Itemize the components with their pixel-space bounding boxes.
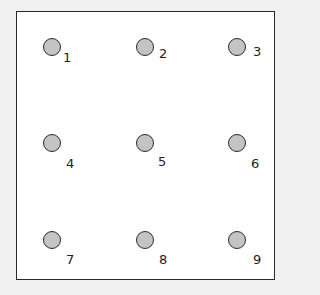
point-9-label: 9: [253, 253, 261, 266]
point-2-marker: [136, 38, 154, 56]
point-7-marker: [43, 231, 61, 249]
point-7-label: 7: [66, 253, 74, 266]
point-4-label: 4: [66, 157, 74, 170]
point-8-label: 8: [159, 253, 167, 266]
point-1-label: 1: [63, 51, 71, 64]
point-6-label: 6: [251, 157, 259, 170]
point-6-marker: [228, 134, 246, 152]
point-5-label: 5: [158, 155, 166, 168]
point-2-label: 2: [159, 47, 167, 60]
point-5-marker: [136, 134, 154, 152]
point-4-marker: [43, 134, 61, 152]
point-9-marker: [228, 231, 246, 249]
point-3-label: 3: [253, 45, 261, 58]
point-8-marker: [136, 231, 154, 249]
point-3-marker: [228, 38, 246, 56]
point-1-marker: [43, 38, 61, 56]
